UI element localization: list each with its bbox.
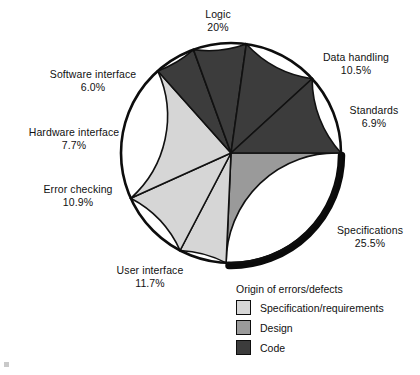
legend-item-specification-requirements: Specification/requirements — [236, 300, 416, 315]
slice-label-hardware-interface-value: 7.7% — [11, 139, 137, 152]
legend-label-code: Code — [260, 342, 285, 354]
slice-label-software-interface-name: Software interface — [32, 68, 154, 81]
legend-item-code: Code — [236, 340, 416, 355]
slice-label-hardware-interface: Hardware interface 7.7% — [11, 126, 137, 151]
legend-swatch-code — [236, 340, 251, 355]
slice-label-user-interface-value: 11.7% — [97, 277, 203, 290]
slice-label-specifications-value: 25.5% — [322, 237, 418, 250]
slice-label-error-checking: Error checking 10.9% — [26, 183, 130, 208]
legend-item-design: Design — [236, 320, 416, 335]
slice-label-user-interface: User interface 11.7% — [97, 264, 203, 289]
scan-corner-artifact — [4, 362, 9, 367]
slice-label-logic-name: Logic — [168, 8, 268, 21]
slice-label-standards-value: 6.9% — [330, 117, 418, 130]
legend-title: Origin of errors/defects — [236, 283, 416, 295]
slice-label-error-checking-value: 10.9% — [26, 196, 130, 209]
slice-label-user-interface-name: User interface — [97, 264, 203, 277]
slice-label-software-interface: Software interface 6.0% — [32, 68, 154, 93]
slice-label-error-checking-name: Error checking — [26, 183, 130, 196]
slice-label-data-handling-name: Data handling — [300, 51, 412, 64]
slice-label-data-handling: Data handling 10.5% — [300, 51, 412, 76]
slice-label-hardware-interface-name: Hardware interface — [11, 126, 137, 139]
legend-label-design: Design — [260, 322, 293, 334]
slice-label-specifications-name: Specifications — [322, 224, 418, 237]
slice-label-data-handling-value: 10.5% — [300, 64, 412, 77]
slice-label-software-interface-value: 6.0% — [32, 81, 154, 94]
legend-label-specification-requirements: Specification/requirements — [260, 302, 384, 314]
legend-swatch-design — [236, 320, 251, 335]
slice-label-logic: Logic 20% — [168, 8, 268, 33]
legend-swatch-specification-requirements — [236, 300, 251, 315]
slice-label-standards-name: Standards — [330, 104, 418, 117]
slice-label-standards: Standards 6.9% — [330, 104, 418, 129]
slice-label-specifications: Specifications 25.5% — [322, 224, 418, 249]
chart-legend: Origin of errors/defects Specification/r… — [236, 283, 416, 360]
slice-label-logic-value: 20% — [168, 21, 268, 34]
pie-chart-figure: Logic 20% Data handling 10.5% Standards … — [0, 0, 420, 375]
